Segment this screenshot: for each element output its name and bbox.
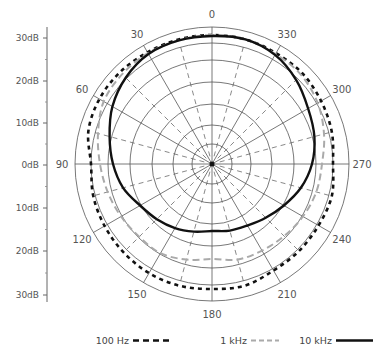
- angle-label: 0: [209, 9, 215, 20]
- polar-chart: 30dB20dB10dB0dB10dB20dB30dB 030609012015…: [0, 0, 384, 362]
- polar-grid: [75, 27, 349, 301]
- angle-label: 120: [73, 234, 92, 245]
- angle-label: 60: [76, 84, 89, 95]
- db-axis: 30dB20dB10dB0dB10dB20dB30dB: [16, 27, 47, 302]
- angle-label: 180: [202, 309, 221, 320]
- angle-label: 150: [127, 289, 146, 300]
- center-point: [210, 162, 215, 167]
- angle-label: 330: [277, 29, 296, 40]
- angle-label: 300: [332, 84, 351, 95]
- db-tick-label: 0dB: [21, 160, 39, 170]
- legend: 100 Hz1 kHz10 kHz: [96, 335, 373, 346]
- legend-label: 1 kHz: [220, 335, 247, 346]
- db-tick-label: 30dB: [16, 33, 39, 43]
- db-tick-label: 10dB: [16, 118, 39, 128]
- angle-label: 210: [277, 289, 296, 300]
- legend-label: 100 Hz: [96, 335, 129, 346]
- angle-label: 270: [352, 159, 371, 170]
- db-tick-label: 30dB: [16, 290, 39, 300]
- db-tick-label: 20dB: [16, 76, 39, 86]
- db-tick-label: 10dB: [16, 203, 39, 213]
- angle-label: 90: [56, 159, 69, 170]
- legend-label: 10 kHz: [299, 335, 332, 346]
- angle-label: 240: [332, 234, 351, 245]
- db-tick-label: 20dB: [16, 246, 39, 256]
- angle-label: 30: [131, 29, 144, 40]
